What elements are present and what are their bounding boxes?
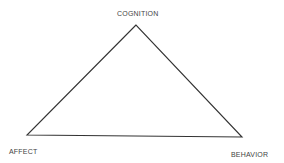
triangle-shape xyxy=(0,0,284,163)
triangle-outline xyxy=(27,25,242,137)
vertex-label-affect: AFFECT xyxy=(9,148,37,155)
vertex-label-cognition: COGNITION xyxy=(117,10,158,17)
diagram-canvas: COGNITION AFFECT BEHAVIOR xyxy=(0,0,284,163)
vertex-label-behavior: BEHAVIOR xyxy=(231,151,268,158)
